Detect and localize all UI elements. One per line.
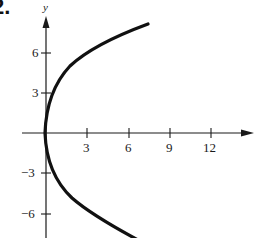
parabola-curve [45, 24, 148, 238]
parabola-graph: 2. y 6 3 −3 −6 3 6 9 12 [0, 0, 257, 238]
x-tick-label: 6 [125, 140, 132, 155]
y-tick-label: −3 [21, 165, 35, 180]
y-axis-arrow-icon [43, 16, 50, 28]
problem-number: 2. [0, 0, 10, 19]
y-tick-label: −6 [21, 206, 35, 221]
x-tick-label: 9 [166, 140, 173, 155]
x-axis-arrow-icon [241, 130, 254, 137]
x-tick-label: 3 [83, 140, 90, 155]
y-tick-label: 6 [32, 45, 39, 60]
y-axis-label: y [42, 1, 48, 13]
x-axis: 3 6 9 12 [22, 128, 254, 155]
y-tick-label: 3 [32, 85, 39, 100]
x-tick-label: 12 [203, 140, 216, 155]
